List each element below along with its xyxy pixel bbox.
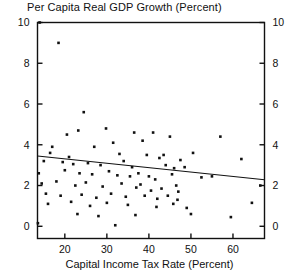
data-point: [108, 170, 111, 173]
data-point: [66, 133, 69, 136]
data-point: [106, 202, 109, 205]
data-point: [95, 196, 98, 199]
data-point: [47, 203, 50, 206]
data-point: [141, 139, 144, 142]
data-point: [162, 154, 165, 157]
data-point: [133, 131, 136, 134]
data-point: [251, 202, 254, 205]
y-tick-label-left: 10: [18, 16, 30, 28]
data-point: [97, 215, 100, 218]
data-point: [114, 224, 117, 227]
data-point: [59, 194, 62, 197]
data-point: [116, 174, 119, 177]
data-point: [70, 201, 73, 204]
data-points: [37, 21, 262, 226]
data-point: [183, 166, 186, 169]
data-point: [49, 152, 52, 155]
data-point: [77, 129, 80, 132]
data-point: [177, 190, 180, 193]
data-point: [129, 175, 132, 178]
data-point: [99, 164, 102, 167]
x-tick-label: 30: [101, 243, 113, 255]
x-tick-label: 20: [59, 243, 71, 255]
data-point: [55, 180, 58, 183]
data-point: [51, 146, 54, 149]
y-tick-label-right: 8: [273, 57, 279, 69]
data-point: [211, 175, 214, 178]
y-axis-left-ticks: 0246810: [18, 16, 43, 232]
y-tick-label-left: 8: [24, 57, 30, 69]
x-tick-label: 60: [227, 243, 239, 255]
y-tick-label-left: 2: [24, 179, 30, 191]
data-point: [200, 176, 203, 179]
data-point: [43, 160, 46, 163]
x-tick-label: 40: [143, 243, 155, 255]
data-point: [167, 194, 170, 197]
data-point: [101, 185, 104, 188]
data-point: [240, 158, 243, 161]
data-point: [93, 146, 96, 149]
data-point: [76, 213, 79, 216]
data-point: [173, 167, 176, 170]
data-point: [150, 189, 153, 192]
data-point: [160, 187, 163, 190]
data-point: [131, 166, 134, 169]
data-point: [176, 198, 179, 201]
x-tick-label: 50: [185, 243, 197, 255]
data-point: [192, 152, 195, 155]
plot-frame: [38, 23, 265, 239]
data-point: [45, 192, 48, 195]
data-point: [120, 182, 123, 185]
data-point: [155, 206, 158, 209]
data-point: [68, 156, 71, 159]
data-point: [154, 178, 157, 181]
y-tick-label-right: 2: [273, 179, 279, 191]
data-point: [122, 160, 125, 163]
data-point: [171, 173, 174, 176]
y-tick-label-left: 4: [24, 139, 30, 151]
y-tick-label-right: 6: [273, 98, 279, 110]
x-axis-ticks: 2030405060: [59, 234, 239, 255]
data-point: [82, 111, 85, 114]
data-point: [118, 153, 121, 156]
data-point: [85, 181, 88, 184]
data-point: [175, 184, 178, 187]
data-point: [112, 141, 115, 144]
data-point: [169, 135, 172, 138]
data-point: [172, 203, 175, 206]
data-point: [134, 214, 137, 217]
data-point: [156, 197, 159, 200]
data-point: [259, 184, 262, 187]
data-point: [105, 127, 108, 130]
data-point: [80, 193, 83, 196]
trendline-segment: [38, 156, 265, 180]
data-point: [190, 213, 193, 216]
data-point: [72, 163, 75, 166]
data-point: [87, 162, 90, 165]
plot-area: 0246810 0246810 2030405060: [0, 0, 299, 270]
data-point: [158, 157, 161, 160]
data-point: [143, 194, 146, 197]
y-tick-label-right: 4: [273, 139, 279, 151]
data-point: [139, 183, 142, 186]
data-point: [179, 159, 182, 162]
data-point: [74, 184, 77, 187]
data-point: [40, 182, 43, 185]
data-point: [185, 207, 188, 210]
data-point: [137, 172, 140, 175]
y-tick-label-left: 0: [24, 220, 30, 232]
y-tick-label-left: 6: [24, 98, 30, 110]
data-point: [38, 21, 41, 24]
x-axis-label: Capital Income Tax Rate (Percent): [0, 258, 299, 270]
data-point: [152, 131, 155, 134]
data-point: [37, 172, 40, 175]
data-point: [230, 216, 233, 219]
data-point: [135, 186, 138, 189]
scatter-plot-figure: Per Capita Real GDP Growth (Percent) 024…: [0, 0, 299, 270]
y-axis-right-ticks: 0246810: [260, 16, 285, 232]
data-point: [64, 169, 67, 172]
data-point: [148, 175, 151, 178]
y-tick-label-right: 0: [273, 220, 279, 232]
data-point: [61, 161, 64, 164]
data-point: [57, 42, 60, 45]
